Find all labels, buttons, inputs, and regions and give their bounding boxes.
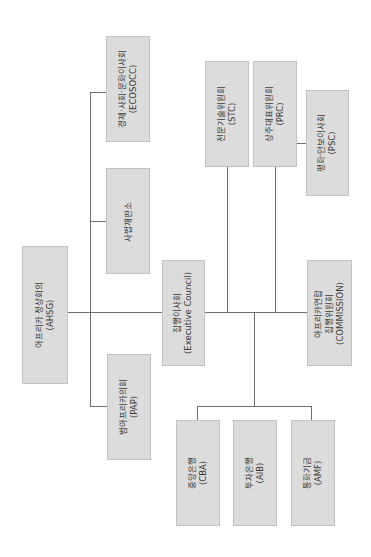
node-abbr: (PAP)	[129, 396, 140, 418]
node-prc: 상주대표위원회(PRC)	[253, 61, 297, 167]
node-abbr: (Executive Council)	[184, 272, 195, 354]
node-label: 경제·사회·문화이사회	[117, 50, 128, 127]
node-abbr: (PSC)	[328, 131, 339, 154]
node-ahsg: 아프리카 정상회의(AHSG)	[22, 246, 68, 384]
node-label: 통화기금	[302, 457, 313, 489]
node-abbr: (CBA)	[198, 461, 209, 485]
node-label: 사법재판소	[123, 201, 134, 241]
node-pap: 범아프리카의회(PAP)	[107, 354, 151, 460]
node-abbr: (STC)	[227, 103, 238, 126]
node-label: 평화·안보이사회	[317, 114, 328, 173]
node-cba: 중앙은행(CBA)	[176, 420, 220, 526]
connector-prc-psc	[296, 143, 306, 144]
node-abbr: (AIB)	[255, 463, 266, 484]
node-abbr: (PRC)	[275, 102, 286, 125]
node-commission: 아프리카연합집행위원회(COMMISSION)	[307, 260, 352, 366]
node-executive-council: 집행이사회(Executive Council)	[162, 260, 205, 366]
node-abbr: (AHSG)	[45, 300, 56, 331]
node-label: 아프리카연합	[313, 289, 324, 337]
connector-to-banks-vertical	[254, 313, 255, 407]
node-court-of-justice: 사법재판소	[106, 168, 150, 274]
connector-to-pap	[90, 406, 107, 407]
node-label: 집행이사회	[173, 293, 184, 333]
connector-to-court	[90, 221, 106, 222]
node-amf: 통화기금(AMF)	[291, 420, 335, 526]
node-abbr: (AMF)	[313, 461, 324, 486]
node-abbr: (ECOSOCC)	[128, 65, 139, 114]
node-label: 아프리카 정상회의	[34, 282, 45, 349]
connector-to-stc	[227, 167, 228, 313]
node-aib: 투자은행(AIB)	[233, 420, 277, 526]
node-label: 범아프리카의회	[118, 379, 129, 435]
connector-organs-vertical	[90, 92, 91, 407]
connector-to-cba	[197, 406, 198, 420]
connector-to-prc	[275, 167, 276, 313]
node-label-2: 집행위원회	[324, 293, 335, 333]
node-abbr: (COMMISSION)	[335, 282, 346, 345]
node-label: 중앙은행	[187, 457, 198, 489]
node-label: 투자은행	[244, 457, 255, 489]
node-stc: 전문기술위원회(STC)	[205, 61, 249, 167]
node-psc: 평화·안보이사회(PSC)	[306, 90, 349, 196]
node-label: 전문기술위원회	[216, 86, 227, 142]
connector-to-amf	[311, 406, 312, 420]
node-ecosocc: 경제·사회·문화이사회(ECOSOCC)	[106, 36, 150, 142]
connector-banks-horizontal	[197, 406, 312, 407]
node-label: 상주대표위원회	[264, 86, 275, 142]
connector-to-ecosocc	[90, 92, 106, 93]
